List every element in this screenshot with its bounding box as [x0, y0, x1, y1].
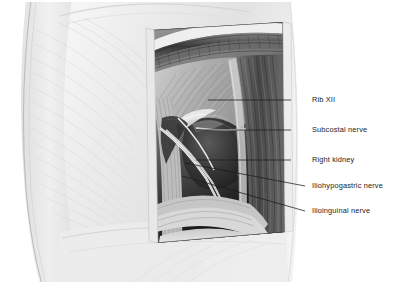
label-ilioinguinal-nerve: Ilioinguinal nerve: [312, 207, 370, 214]
dissection-window: [146, 18, 293, 250]
illustration-canvas: [0, 0, 401, 284]
label-rib-xii: Rib XII: [312, 96, 335, 103]
label-subcostal-nerve: Subcostal nerve: [312, 126, 367, 133]
label-right-kidney: Right kidney: [312, 156, 354, 163]
label-iliohypogastric-nerve: Iliohypogastric nerve: [312, 182, 383, 189]
anatomical-figure: Rib XII Subcostal nerve Right kidney Ili…: [0, 0, 401, 284]
